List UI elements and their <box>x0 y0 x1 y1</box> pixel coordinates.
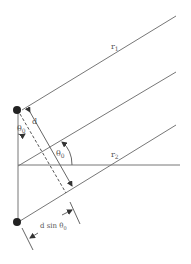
array-diagram: r1 r2 d θ0 θ0 d sin θ0 <box>0 0 191 264</box>
label-d: d <box>32 117 37 126</box>
ray-r2 <box>20 125 176 221</box>
array-element-bottom <box>13 218 21 226</box>
dsin-tick-right <box>70 202 80 224</box>
label-r2: r2 <box>111 150 119 160</box>
label-theta-mid: θ0 <box>56 149 65 159</box>
ray-middle <box>18 72 176 166</box>
dsin-arrow-right <box>62 210 72 215</box>
label-theta-top: θ0 <box>17 124 26 134</box>
array-element-top <box>13 106 21 114</box>
dsin-arrow-left <box>30 233 38 238</box>
dsin-tick-left <box>22 228 33 250</box>
label-r1: r1 <box>111 42 119 52</box>
ray-r1 <box>22 16 176 110</box>
label-dsin: d sin θ0 <box>40 222 67 231</box>
theta-top-arc <box>18 134 25 135</box>
